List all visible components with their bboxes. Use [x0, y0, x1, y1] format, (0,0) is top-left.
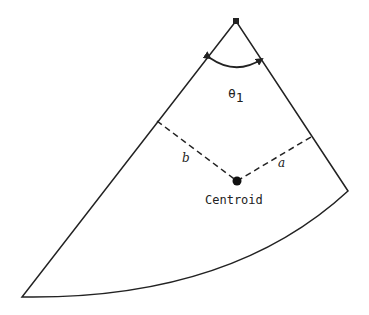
centroid-label: Centroid: [205, 193, 263, 207]
distance-a-line: [237, 137, 311, 181]
distance-b-line: [157, 121, 237, 181]
distance-b-label: b: [182, 151, 190, 165]
sector-diagram: θ1 b a Centroid: [0, 0, 369, 315]
centroid-point: [233, 177, 242, 186]
angle-arc: [210, 58, 262, 67]
angle-label: θ1: [228, 86, 244, 105]
apex-marker: [233, 18, 239, 24]
distance-a-label: a: [278, 156, 285, 170]
